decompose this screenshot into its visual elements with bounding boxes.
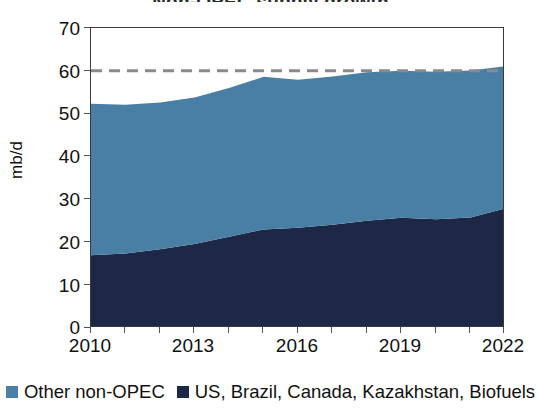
x-tick-label-2019: 2019 <box>370 336 430 355</box>
plot-area <box>90 27 504 327</box>
x-tick-label-2010: 2010 <box>60 336 120 355</box>
x-tick-mark-2021 <box>469 327 470 333</box>
x-tick-mark-2018 <box>366 327 367 333</box>
x-tick-mark-2022 <box>503 327 504 333</box>
chart-legend: Other non-OPEC US, Brazil, Canada, Kazak… <box>0 381 541 403</box>
legend-item-other-non-opec[interactable]: Other non-OPEC <box>6 381 165 403</box>
x-tick-mark-2010 <box>90 327 91 333</box>
y-tick-label-40: 40 <box>38 147 80 166</box>
y-tick-label-60: 60 <box>38 62 80 81</box>
x-tick-mark-2020 <box>435 327 436 333</box>
x-tick-mark-2016 <box>297 327 298 333</box>
y-tick-label-30: 30 <box>38 190 80 209</box>
x-tick-label-2013: 2013 <box>163 336 223 355</box>
legend-swatch-other-non-opec <box>6 386 18 398</box>
y-tick-label-70: 70 <box>38 19 80 38</box>
x-tick-mark-2017 <box>331 327 332 333</box>
x-tick-mark-2011 <box>124 327 125 333</box>
area-chart-svg <box>91 28 504 327</box>
legend-label-other-non-opec: Other non-OPEC <box>24 381 165 403</box>
chart-title: Non-OPEC supply growth <box>0 0 541 2</box>
y-tick-label-50: 50 <box>38 104 80 123</box>
x-tick-mark-2012 <box>159 327 160 333</box>
y-tick-label-20: 20 <box>38 233 80 252</box>
x-tick-label-2022: 2022 <box>473 336 533 355</box>
legend-label-us-brazil-canada-kazakhstan-biofuels: US, Brazil, Canada, Kazakhstan, Biofuels <box>195 381 535 403</box>
legend-item-us-brazil-canada-kazakhstan-biofuels[interactable]: US, Brazil, Canada, Kazakhstan, Biofuels <box>177 381 535 403</box>
x-tick-mark-2013 <box>193 327 194 333</box>
legend-swatch-us-brazil-canada-kazakhstan-biofuels <box>177 386 189 398</box>
y-tick-label-10: 10 <box>38 276 80 295</box>
x-tick-label-2016: 2016 <box>267 336 327 355</box>
x-tick-mark-2014 <box>228 327 229 333</box>
chart-container: Non-OPEC supply growth mb/d 70 60 50 40 … <box>0 0 541 411</box>
y-axis-label: mb/d <box>7 125 27 195</box>
x-tick-mark-2015 <box>262 327 263 333</box>
x-tick-mark-2019 <box>400 327 401 333</box>
